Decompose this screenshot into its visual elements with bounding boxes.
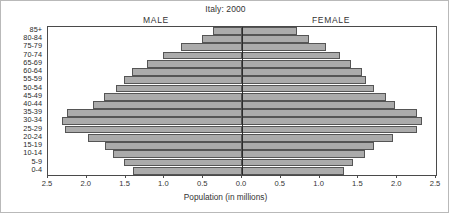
bar-male — [67, 109, 242, 117]
bar-male — [93, 101, 242, 109]
plot-area — [47, 26, 437, 176]
x-axis-tick-label: 0.5 — [275, 179, 286, 188]
bar-female — [242, 76, 366, 84]
bar-female — [242, 101, 395, 109]
bar-female — [242, 142, 374, 150]
y-axis-labels: 85+80-8475-7970-7465-6960-6455-5950-5445… — [1, 26, 45, 174]
bar-female — [242, 68, 362, 76]
bar-female — [242, 43, 326, 51]
bar-male — [65, 126, 242, 134]
population-pyramid-figure: Italy: 2000 MALE FEMALE 85+80-8475-7970-… — [0, 0, 449, 213]
bar-male — [105, 142, 242, 150]
x-axis-tick-label: 2.0 — [81, 179, 92, 188]
bar-male — [116, 85, 242, 93]
x-axis-tick — [202, 175, 203, 178]
center-axis-line — [242, 27, 243, 175]
bar-male — [124, 159, 242, 167]
bar-female — [242, 126, 417, 134]
bar-female — [242, 159, 353, 167]
bar-male — [202, 35, 242, 43]
bar-male — [113, 150, 242, 158]
x-axis-tick — [86, 175, 87, 178]
page-title: Italy: 2000 — [1, 4, 449, 14]
bar-male — [104, 93, 242, 101]
bar-female — [242, 27, 297, 35]
bar-male — [62, 117, 242, 125]
bar-female — [242, 85, 374, 93]
bar-male — [213, 27, 242, 35]
y-axis-label: 10-14 — [23, 149, 42, 157]
bar-female — [242, 52, 340, 60]
legend-label-male: MALE — [116, 15, 196, 25]
bar-male — [133, 167, 242, 175]
x-axis-tick-label: 0.0 — [236, 179, 247, 188]
x-axis-tick-label: 1.5 — [119, 179, 130, 188]
x-axis-title: Population (in millions) — [1, 192, 449, 202]
bar-female — [242, 134, 393, 142]
x-axis-tick — [435, 175, 436, 178]
x-axis-tick — [241, 175, 242, 178]
x-axis-tick-label: 0.5 — [197, 179, 208, 188]
bar-female — [242, 117, 422, 125]
bar-male — [132, 68, 242, 76]
x-axis-tick-label: 1.0 — [158, 179, 169, 188]
y-axis-label: 55-59 — [23, 75, 42, 83]
x-axis-tick-label: 2.0 — [391, 179, 402, 188]
bar-male — [181, 43, 242, 51]
bar-female — [242, 35, 309, 43]
y-axis-label: 0-4 — [31, 166, 42, 174]
x-axis-tick — [47, 175, 48, 178]
x-axis-tick — [319, 175, 320, 178]
x-axis-tick-label: 1.0 — [313, 179, 324, 188]
x-axis-tick — [357, 175, 358, 178]
bar-female — [242, 109, 417, 117]
x-axis-tick-labels: 2.52.01.51.00.50.00.51.01.52.02.5 — [47, 179, 435, 190]
x-axis-tick-label: 2.5 — [42, 179, 53, 188]
x-axis-tick — [280, 175, 281, 178]
x-axis-tick-label: 1.5 — [352, 179, 363, 188]
bar-male — [147, 60, 242, 68]
x-axis-tick — [163, 175, 164, 178]
bar-male — [124, 76, 242, 84]
bar-male — [163, 52, 242, 60]
bar-female — [242, 167, 344, 175]
bar-male — [88, 134, 242, 142]
x-axis-tick — [396, 175, 397, 178]
x-axis-tick — [125, 175, 126, 178]
bar-female — [242, 60, 351, 68]
x-axis-tick-label: 2.5 — [430, 179, 441, 188]
bar-female — [242, 150, 365, 158]
legend-label-female: FEMALE — [291, 15, 371, 25]
bar-female — [242, 93, 386, 101]
